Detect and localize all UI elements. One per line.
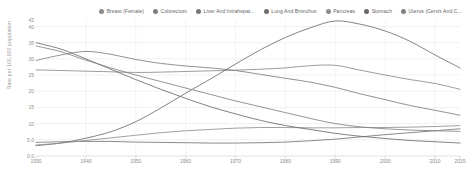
legend-marker-icon — [153, 9, 158, 14]
y-axis-tick-label: 35 — [2, 41, 34, 46]
y-axis-tick-label: 0.0 — [2, 154, 34, 159]
legend-marker-icon — [326, 9, 331, 14]
cancer-mortality-line-chart: Breast (Female)ColorectumLiver And Intra… — [0, 0, 468, 176]
plot-svg — [36, 20, 460, 156]
legend-item[interactable]: Colorectum — [153, 8, 187, 14]
x-axis-tick-label: 1960 — [180, 158, 191, 164]
x-axis-tick-label: 1970 — [230, 158, 241, 164]
legend-item-label: Colorectum — [161, 8, 188, 14]
y-axis-tick-labels: 42403530252015105.00.0 — [0, 20, 34, 160]
x-axis-tick-labels: 1930194019501960197019801990200020102015 — [36, 158, 466, 170]
x-axis-tick-label: 1980 — [280, 158, 291, 164]
legend-item-label: Stomach — [372, 8, 392, 14]
x-axis-tick-label: 1950 — [130, 158, 141, 164]
series-line — [36, 65, 460, 89]
legend-item[interactable]: Breast (Female) — [99, 8, 144, 14]
legend-item-label: Pancreas — [333, 8, 355, 14]
legend-item-label: Uterus (Cervix And C... — [409, 8, 462, 14]
legend-item[interactable]: Lung And Bronchus — [264, 8, 317, 14]
x-axis-tick-label: 2000 — [380, 158, 391, 164]
legend-item-label: Liver And Intrahepat... — [204, 8, 255, 14]
legend-item[interactable]: Stomach — [364, 8, 392, 14]
y-axis-tick-label: 30 — [2, 57, 34, 62]
y-axis-tick-label: 10 — [2, 122, 34, 127]
chart-legend: Breast (Female)ColorectumLiver And Intra… — [0, 5, 468, 17]
legend-marker-icon — [264, 9, 269, 14]
legend-marker-icon — [401, 9, 406, 14]
y-axis-tick-label: 20 — [2, 89, 34, 94]
series-line — [36, 51, 460, 115]
y-axis-tick-label: 25 — [2, 73, 34, 78]
legend-marker-icon — [99, 9, 104, 14]
y-axis-tick-label: 42 — [2, 18, 34, 23]
series-line — [36, 129, 460, 143]
x-axis-tick-label: 2010 — [430, 158, 441, 164]
legend-marker-icon — [196, 9, 201, 14]
legend-item[interactable]: Liver And Intrahepat... — [196, 8, 255, 14]
y-axis-tick-label: 40 — [2, 25, 34, 30]
x-axis-tick-label: 1990 — [330, 158, 341, 164]
legend-item-label: Breast (Female) — [107, 8, 144, 14]
x-axis-tick-label: 1930 — [30, 158, 41, 164]
x-axis-tick-label: 2015 — [454, 158, 465, 164]
x-axis-tick-label: 1940 — [80, 158, 91, 164]
y-axis-tick-label: 5.0 — [2, 138, 34, 143]
y-axis-tick-label: 15 — [2, 105, 34, 110]
plot-area — [36, 20, 460, 156]
legend-item[interactable]: Pancreas — [326, 8, 355, 14]
legend-item[interactable]: Uterus (Cervix And C... — [401, 8, 462, 14]
legend-marker-icon — [364, 9, 369, 14]
series-line — [36, 21, 460, 146]
legend-item-label: Lung And Bronchus — [271, 8, 316, 14]
